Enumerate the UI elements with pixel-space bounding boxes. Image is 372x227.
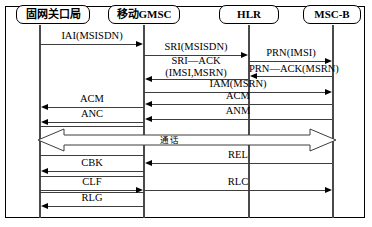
message-label-rel: REL [144,149,332,160]
participant-label-gateway: 固网关口局 [26,8,81,20]
arrowhead-rlc [325,187,332,193]
message-label-clf: CLF [40,176,144,187]
message-line-rel [150,163,332,164]
arrowhead-anm [145,116,152,122]
message-label-prn: PRN(IMSI) [249,47,333,58]
participant-label-gmsc: 移动GMSC [117,8,172,20]
arrowhead-rel [145,160,152,166]
message-line-rlc [144,190,326,191]
participant-box-gateway[interactable]: 固网关口局 [16,5,90,24]
message-label-sri-ack-line1: SRI—ACK [144,55,248,67]
arrowhead-rlg [41,203,48,209]
arrowhead-iai [136,41,143,47]
message-label-rlc: RLC [144,176,332,187]
arrowhead-anc [41,119,48,125]
message-label-cbk: CBK [40,157,144,168]
message-label-rlg: RLG [40,192,144,203]
participant-box-hlr[interactable]: HLR [219,5,279,24]
message-label-acm-gw: ACM [40,93,144,104]
message-line-prn [249,61,326,62]
participant-label-hlr: HLR [237,8,261,20]
message-line-anc [46,122,144,123]
message-line-cbk [46,171,144,172]
message-label-anm: ANM [144,105,332,116]
arrowhead-cbk [41,168,48,174]
participant-box-gmsc[interactable]: 移动GMSC [108,5,180,24]
message-label-sri-ack: SRI—ACK (IMSI,MSRN) [144,55,248,78]
message-label-prn-ack: PRN—ACK(MSRN) [249,63,369,74]
message-line-clf [40,190,137,191]
separator-left-lower [40,155,144,156]
message-label-iai: IAI(MSISDN) [40,30,144,41]
message-label-sri: SRI(MSISDN) [144,41,248,52]
message-label-sri-ack-line2: (IMSI,MSRN) [144,67,248,79]
call-phase-label: 通话 [140,133,200,145]
participant-box-mscb[interactable]: MSC-B [303,5,361,24]
message-line-iai [40,44,137,45]
message-label-acm-mscb: ACM [144,90,332,101]
participant-label-mscb: MSC-B [314,8,349,20]
message-line-prn-ack [255,76,332,77]
sequence-diagram: 固网关口局 移动GMSC HLR MSC-B IAI(MSISDN) SRI(M… [0,0,372,227]
message-line-anm [150,119,332,120]
message-label-anc: ANC [40,108,144,119]
message-line-rlg [46,206,144,207]
message-label-iam: IAM(MSRN) [144,78,332,89]
